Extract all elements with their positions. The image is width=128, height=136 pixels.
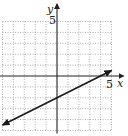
axes bbox=[0, 4, 124, 134]
x-tick-label-5: 5 bbox=[106, 79, 113, 90]
y-tick-label-5: 5 bbox=[49, 15, 56, 26]
x-axis-label: x bbox=[117, 78, 123, 89]
graph-plot bbox=[0, 0, 128, 136]
